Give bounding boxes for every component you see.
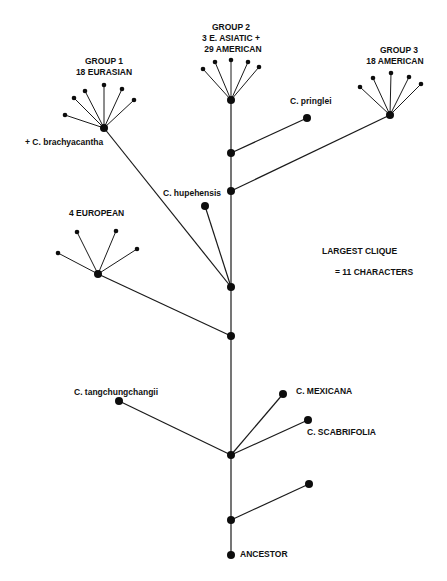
tree-edge [119, 401, 231, 455]
node-trunk4 [227, 283, 235, 291]
european-label: 4 EUROPEAN [69, 208, 124, 219]
tree-edge [231, 420, 308, 455]
node-trunk3 [227, 332, 235, 340]
node-group3_hub [386, 111, 394, 119]
tree-nodes [56, 58, 424, 559]
node-scabrifolia [304, 416, 312, 424]
clique-label-line1: LARGEST CLIQUE [322, 246, 397, 257]
group1-label-line1: GROUP 1 [85, 56, 123, 67]
fan-edge [58, 253, 98, 274]
node-mexicana [279, 390, 287, 398]
leaf-node [257, 65, 262, 70]
fan-edge [215, 62, 231, 100]
tangchungchangii-label: C. tangchungchangii [74, 387, 158, 398]
leaf-node [63, 113, 68, 118]
fan-edge [77, 232, 98, 274]
leaf-node [132, 98, 137, 103]
group-fans [58, 60, 421, 274]
mexicana-label: C. MEXICANA [296, 386, 352, 397]
node-hupehensis [201, 202, 209, 210]
leaf-node [419, 82, 424, 87]
fan-edge [390, 84, 421, 115]
fan-edge [373, 78, 390, 115]
node-european_hub [94, 270, 102, 278]
brachyacantha-label: + C. brachyacantha [25, 137, 103, 148]
group2-label-line3: 29 AMERICAN [204, 44, 261, 55]
fan-edge [98, 231, 116, 274]
tree-edge [231, 394, 283, 455]
fan-edge [231, 62, 248, 100]
tree-edge [231, 484, 309, 520]
leaf-node [213, 60, 218, 65]
leaf-node [407, 75, 412, 80]
node-group1_hub [100, 124, 108, 132]
leaf-node [72, 96, 77, 101]
node-trunk2 [227, 451, 235, 459]
fan-edge [390, 77, 409, 115]
leaf-node [56, 251, 61, 256]
fan-edge [104, 100, 134, 128]
tree-edge [231, 115, 390, 191]
leaf-node [246, 60, 251, 65]
node-trunk1 [227, 516, 235, 524]
node-trunk6 [227, 149, 235, 157]
fan-edge [360, 87, 390, 115]
pringlei-label: C. pringlei [290, 96, 332, 107]
leaf-node [201, 67, 206, 72]
node-ancestor [227, 551, 235, 559]
node-pringlei [303, 114, 311, 122]
node-leaf_unlabeled [305, 480, 313, 488]
fan-edge [231, 67, 259, 100]
leaf-node [371, 76, 376, 81]
phylogenetic-tree [0, 0, 447, 581]
leaf-node [102, 83, 107, 88]
ancestor-label: ANCESTOR [240, 549, 288, 560]
leaf-node [389, 71, 394, 76]
leaf-node [114, 229, 119, 234]
group3-label-line1: GROUP 3 [380, 45, 418, 56]
group2-label-line1: GROUP 2 [212, 22, 250, 33]
scabrifolia-label: C. SCABRIFOLIA [307, 427, 376, 438]
tree-edge [98, 274, 231, 336]
leaf-node [229, 58, 234, 63]
leaf-node [135, 247, 140, 252]
leaf-node [83, 89, 88, 94]
fan-edge [203, 69, 231, 100]
fan-edge [98, 249, 137, 274]
group3-label-line2: 18 AMERICAN [366, 56, 423, 67]
leaf-node [358, 85, 363, 90]
clique-label-line2: = 11 CHARACTERS [335, 267, 413, 278]
fan-edge [104, 89, 122, 128]
fan-edge [390, 73, 391, 115]
tree-edge [231, 118, 307, 153]
tree-edges [98, 100, 390, 555]
hupehensis-label: C. hupehensis [163, 188, 221, 199]
leaf-node [75, 230, 80, 235]
group2-label-line2: 3 E. ASIATIC + [202, 33, 260, 44]
leaf-node [120, 87, 125, 92]
node-group2_hub [227, 96, 235, 104]
node-trunk5 [227, 187, 235, 195]
node-tangchungchangii [115, 397, 123, 405]
group1-label-line2: 18 EURASIAN [76, 67, 132, 78]
tree-edge [205, 206, 231, 287]
